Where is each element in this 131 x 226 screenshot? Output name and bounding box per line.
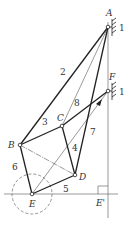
joints — [18, 25, 110, 196]
label-F: F — [108, 72, 116, 82]
right-angle-marker — [98, 186, 108, 194]
joint-C — [60, 124, 64, 128]
label-link-7: 7 — [90, 127, 96, 137]
line-B-D — [20, 145, 75, 175]
label-link-6: 6 — [12, 162, 18, 172]
joint-D — [73, 173, 77, 177]
label-ground-A: 1 — [119, 23, 125, 33]
label-link-4: 4 — [72, 143, 78, 153]
joint-B — [18, 143, 22, 147]
label-link-3: 3 — [42, 117, 48, 127]
joint-A — [106, 25, 110, 29]
label-A: A — [105, 8, 113, 18]
label-E: E — [28, 199, 36, 209]
joint-E — [30, 192, 34, 196]
link-8 — [62, 91, 108, 126]
link-6 — [20, 145, 32, 194]
label-ground-F: 1 — [119, 87, 125, 97]
label-link-2: 2 — [60, 67, 66, 77]
label-E-prime: E' — [95, 198, 105, 208]
label-B: B — [7, 140, 15, 150]
label-D: D — [78, 172, 86, 182]
label-link-8: 8 — [74, 98, 80, 108]
joint-F — [106, 89, 110, 93]
label-link-5: 5 — [63, 184, 69, 194]
line-E-F — [32, 91, 108, 194]
label-C: C — [57, 113, 64, 123]
linkage-diagram: A F B C D E E' 2 3 4 5 6 7 8 1 1 — [0, 0, 131, 226]
line-A-C — [62, 27, 108, 126]
